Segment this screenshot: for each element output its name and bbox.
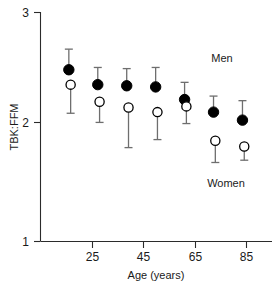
data-group-women-65 (182, 102, 191, 124)
data-point-men-25 (64, 65, 74, 75)
x-tick-label-25: 25 (86, 250, 100, 264)
data-point-women-75 (211, 136, 220, 145)
data-group-men-55 (150, 67, 160, 92)
data-point-men-55 (150, 82, 160, 92)
data-group-men-65 (179, 82, 189, 104)
data-group-men-75 (208, 96, 218, 117)
x-axis-title: Age (years) (128, 269, 185, 281)
data-point-women-25 (66, 80, 75, 89)
data-point-women-65 (182, 102, 191, 111)
y-axis-title: TBK:FFM (8, 103, 20, 150)
data-group-women-85 (240, 142, 249, 160)
data-point-men-45 (122, 81, 132, 91)
data-point-men-35 (93, 79, 103, 89)
scatter-plot-svg: 3 2 1 25 45 65 85 TBK:FFM Age (years) Me… (0, 0, 279, 285)
x-tick-label-45: 45 (137, 250, 151, 264)
data-group-men-85 (237, 101, 247, 126)
series-label-men: Men (211, 52, 232, 64)
y-tick-label-1: 1 (22, 235, 29, 249)
data-point-men-85 (237, 115, 247, 125)
data-group-women-25 (66, 80, 75, 113)
data-point-women-35 (95, 97, 104, 106)
data-group-women-45 (124, 103, 133, 148)
data-group-women-35 (95, 97, 104, 122)
data-point-women-45 (124, 103, 133, 112)
y-tick-label-2: 2 (22, 116, 29, 130)
x-tick-label-65: 65 (189, 250, 203, 264)
data-point-women-85 (240, 142, 249, 151)
series-label-women: Women (207, 177, 245, 189)
data-point-men-75 (208, 107, 218, 117)
data-group-women-55 (153, 108, 162, 140)
data-point-women-55 (153, 108, 162, 117)
plot-data-layer (64, 49, 249, 162)
y-tick-label-3: 3 (22, 6, 29, 20)
data-group-women-75 (211, 136, 220, 162)
x-tick-label-85: 85 (240, 250, 254, 264)
data-group-men-45 (122, 69, 132, 91)
data-group-men-25 (64, 49, 74, 75)
data-group-men-35 (93, 67, 103, 89)
chart-container: 3 2 1 25 45 65 85 TBK:FFM Age (years) Me… (0, 0, 279, 285)
